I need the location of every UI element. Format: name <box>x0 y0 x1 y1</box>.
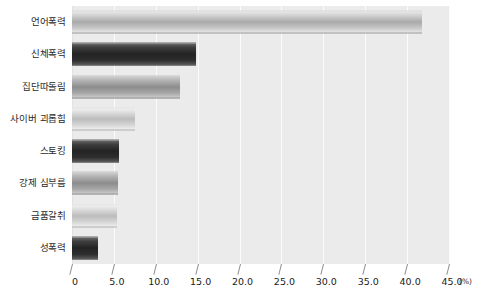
bar-chart: 언어폭력신체폭력집단따돌림사이버 괴롭힘스토킹강제 심부름금품갈취성폭력 05.… <box>0 0 486 306</box>
bar-5[interactable] <box>72 140 119 163</box>
tick-label-3: 15.0 <box>190 276 211 287</box>
tick-mark-6 <box>321 264 325 275</box>
tick-mark-3 <box>195 264 199 275</box>
plot-area <box>72 6 449 264</box>
bar-row <box>72 135 449 167</box>
x-axis-unit-label: (%) <box>459 277 472 286</box>
category-label-6: 강제 심부름 <box>0 167 66 199</box>
bar-row <box>72 6 449 38</box>
value-axis: 05.010.015.020.025.030.035.040.045.0 (%) <box>0 264 486 306</box>
bar-row <box>72 103 449 135</box>
tick-mark-8 <box>404 264 408 275</box>
bar-1[interactable] <box>72 11 422 34</box>
tick-mark-2 <box>153 264 157 275</box>
bar-2[interactable] <box>72 43 196 66</box>
bar-row <box>72 200 449 232</box>
bar-row <box>72 38 449 70</box>
bar-3[interactable] <box>72 75 180 98</box>
tick-mark-5 <box>279 264 283 275</box>
tick-label-2: 10.0 <box>148 276 169 287</box>
tick-mark-9 <box>446 264 450 275</box>
tick-label-6: 30.0 <box>316 276 337 287</box>
bar-row <box>72 167 449 199</box>
tick-label-4: 20.0 <box>232 276 253 287</box>
tick-label-1: 5.0 <box>109 276 124 287</box>
category-label-8: 성폭력 <box>0 232 66 264</box>
tick-label-8: 40.0 <box>400 276 421 287</box>
bar-7[interactable] <box>72 204 117 227</box>
tick-label-5: 25.0 <box>274 276 295 287</box>
bar-4[interactable] <box>72 107 135 130</box>
category-label-2: 신체폭력 <box>0 38 66 70</box>
category-label-5: 스토킹 <box>0 135 66 167</box>
category-label-1: 언어폭력 <box>0 6 66 38</box>
tick-mark-1 <box>111 264 115 275</box>
tick-label-7: 35.0 <box>358 276 379 287</box>
bar-row <box>72 71 449 103</box>
gridline-45 <box>449 6 450 264</box>
bar-6[interactable] <box>72 172 118 195</box>
bar-row <box>72 232 449 264</box>
tick-label-0: 0 <box>72 276 78 287</box>
tick-mark-4 <box>237 264 241 275</box>
category-axis-labels: 언어폭력신체폭력집단따돌림사이버 괴롭힘스토킹강제 심부름금품갈취성폭력 <box>0 6 66 264</box>
tick-mark-7 <box>363 264 367 275</box>
bar-8[interactable] <box>72 236 98 259</box>
category-label-4: 사이버 괴롭힘 <box>0 103 66 135</box>
category-label-3: 집단따돌림 <box>0 71 66 103</box>
tick-mark-0 <box>69 264 73 275</box>
category-label-7: 금품갈취 <box>0 200 66 232</box>
